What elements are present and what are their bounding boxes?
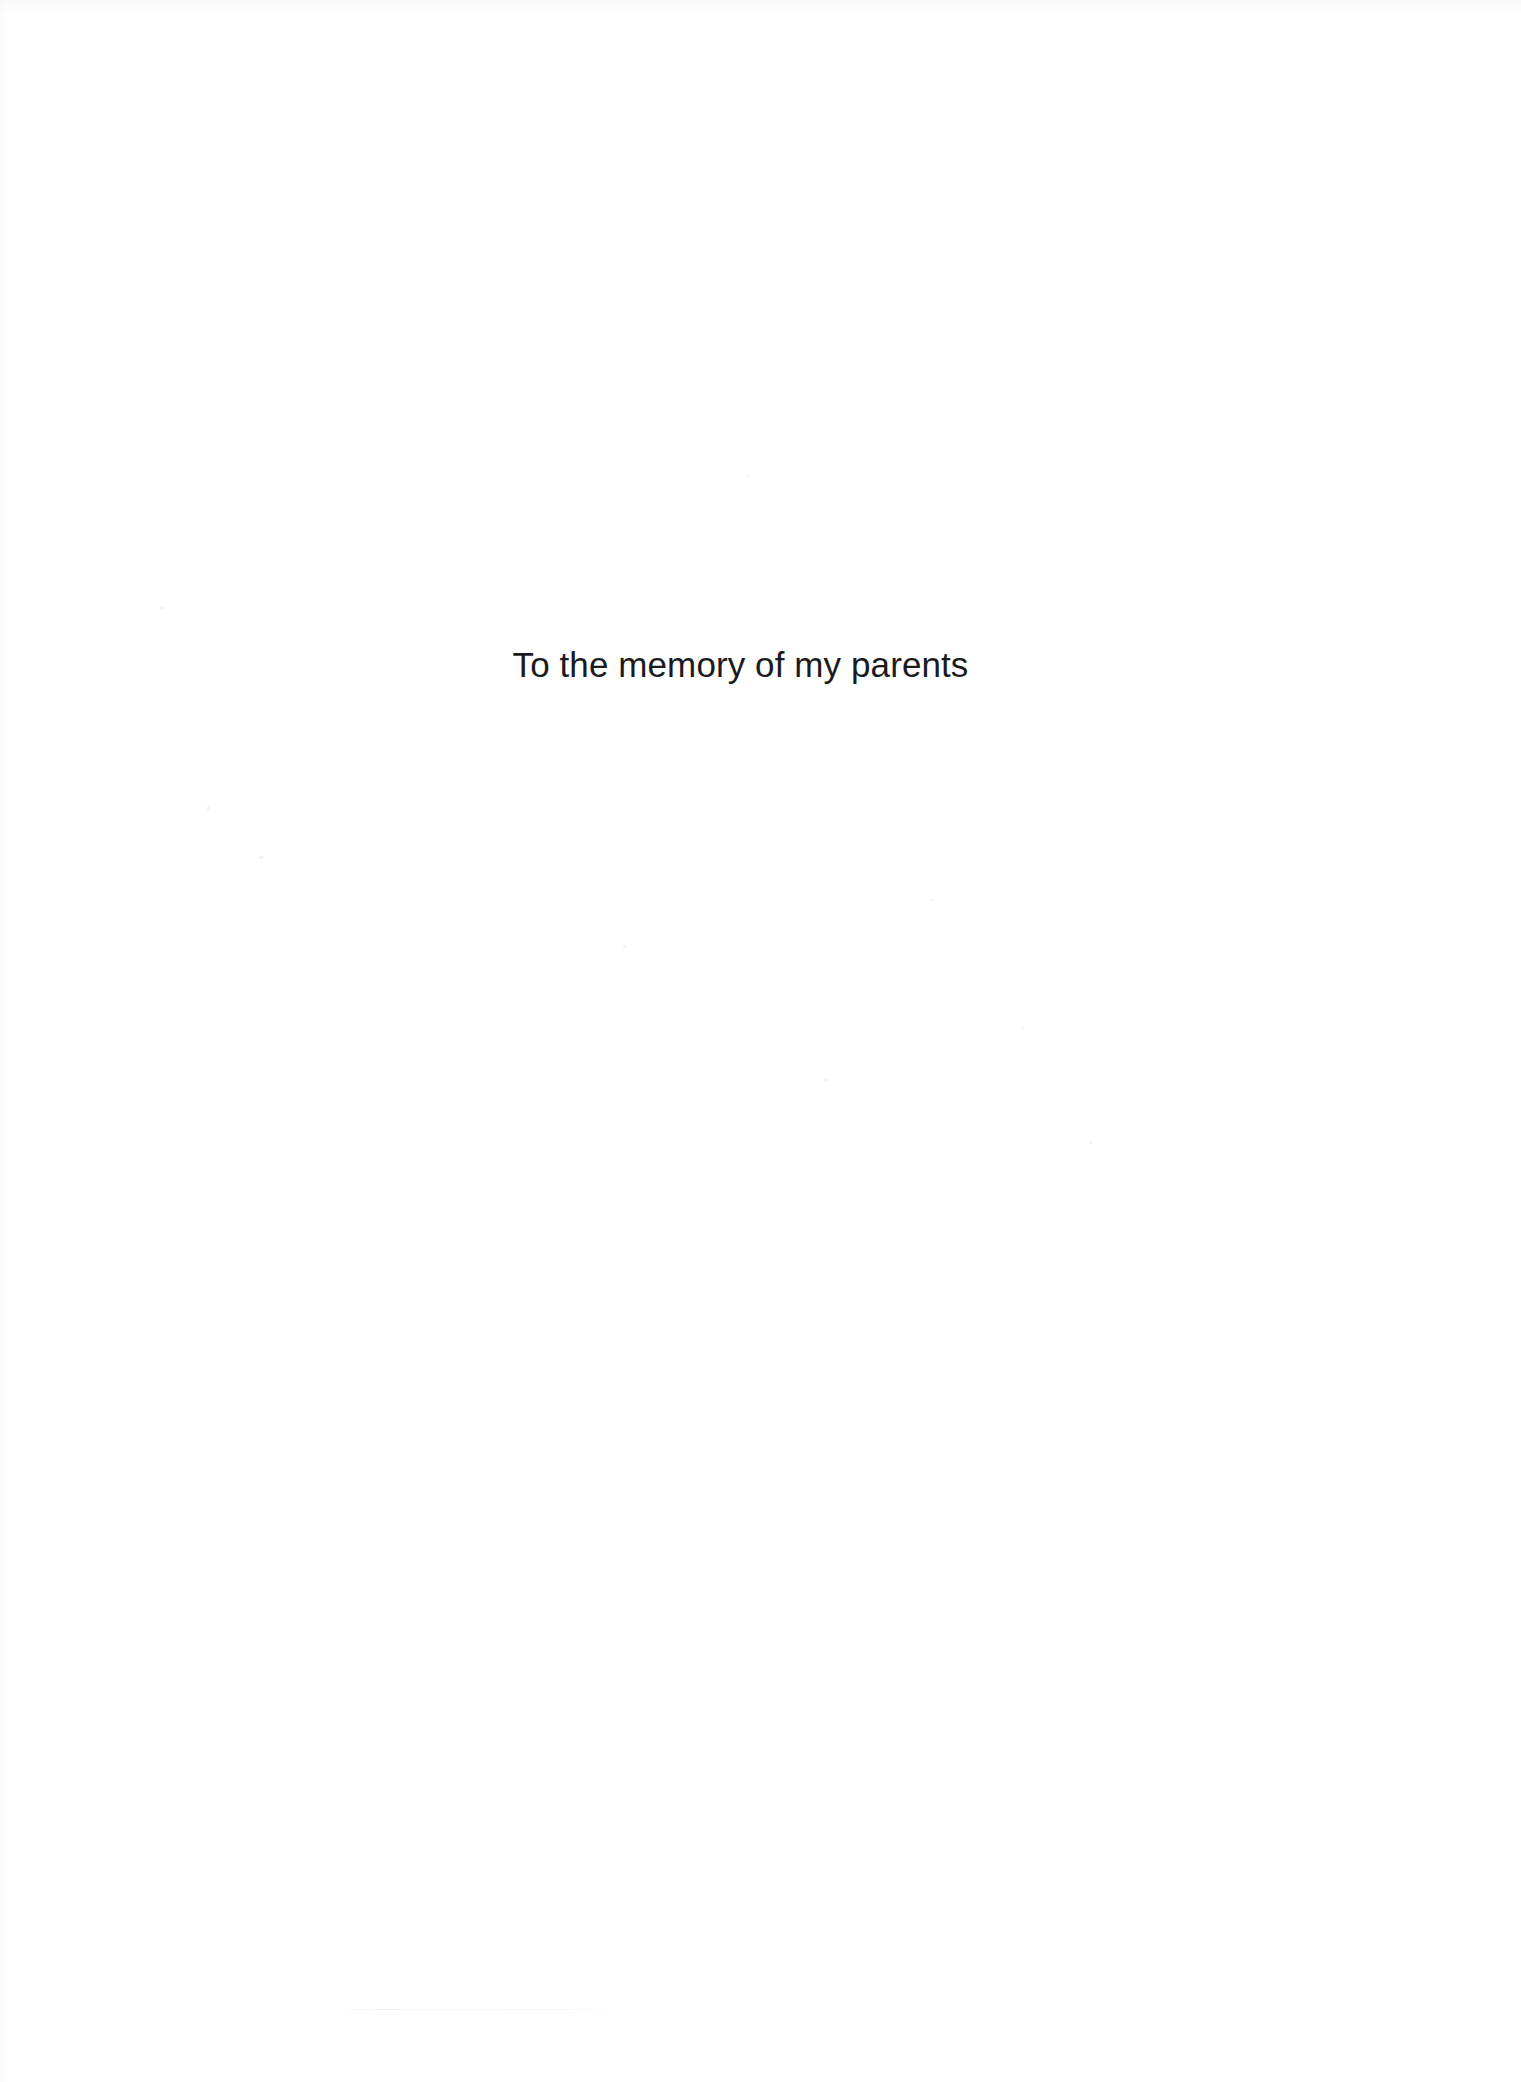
scan-speck: [259, 856, 264, 859]
scan-speck: [824, 1078, 828, 1082]
scan-speck: [930, 899, 933, 901]
scan-edge-shadow-left: [0, 0, 10, 2082]
scan-speck: [1089, 1141, 1092, 1144]
scan-speck: [1021, 1026, 1024, 1029]
scan-speck: [207, 806, 210, 811]
dedication-page: To the memory of my parents: [0, 0, 1521, 2082]
scan-speck: [623, 945, 626, 948]
dedication-text: To the memory of my parents: [0, 643, 1481, 687]
scan-edge-shadow-top: [0, 0, 1521, 14]
scan-line-artifact: [340, 2009, 620, 2010]
scan-speck: [160, 607, 164, 609]
scan-speck: [746, 474, 749, 477]
